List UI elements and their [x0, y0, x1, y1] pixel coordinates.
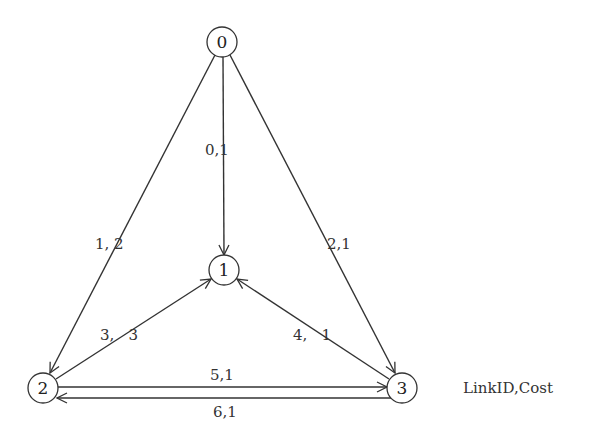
node-label-1: 1: [219, 260, 230, 280]
node-2: 2: [28, 373, 58, 403]
edge-3-to-1: 4, 1: [237, 279, 389, 379]
node-label-0: 0: [217, 32, 228, 52]
edge-label-2: 2,1: [327, 235, 351, 253]
edge-0-to-1: 0,1: [205, 57, 229, 255]
legend-text: LinkID,Cost: [463, 379, 553, 397]
edge-3-to-2: 6,1: [57, 398, 392, 421]
edge-2-to-3: 5,1: [58, 366, 387, 387]
edge-2-to-1: 3, 3: [56, 279, 211, 379]
node-1: 1: [209, 255, 239, 285]
node-label-2: 2: [38, 378, 49, 398]
edge-label-5: 5,1: [210, 366, 234, 384]
network-graph-diagram: 0,1 1, 2 2,1 3, 3 4, 1 5,1 6,1 0 1 2: [0, 0, 589, 439]
edge-label-6: 6,1: [213, 403, 237, 421]
edge-label-1: 1, 2: [95, 235, 124, 253]
edge-label-4: 4, 1: [293, 326, 331, 344]
edge-label-0: 0,1: [205, 141, 229, 159]
edge-label-3: 3, 3: [100, 326, 138, 344]
node-3: 3: [387, 373, 417, 403]
node-label-3: 3: [397, 378, 408, 398]
node-0: 0: [207, 27, 237, 57]
